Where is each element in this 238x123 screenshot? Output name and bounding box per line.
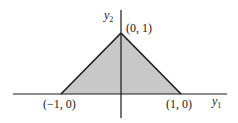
vertex-label-left: (−1, 0): [43, 97, 76, 111]
region-diagram: y2 y1 (0, 1) (−1, 0) (1, 0): [0, 0, 238, 123]
vertex-label-right: (1, 0): [166, 97, 192, 111]
horizontal-axis-label: y1: [211, 94, 221, 110]
vertex-label-apex: (0, 1): [126, 21, 152, 35]
vertical-axis-label: y2: [103, 8, 113, 24]
